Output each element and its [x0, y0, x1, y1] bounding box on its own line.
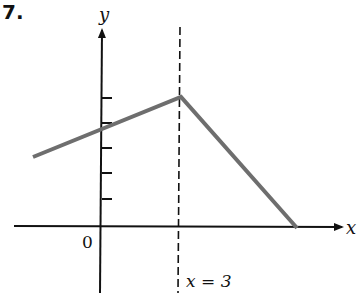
origin-label: 0: [82, 232, 93, 252]
dashed-line-label: x = 3: [186, 271, 231, 291]
graph-figure: y x 0 x = 3: [0, 0, 359, 293]
y-axis: [100, 30, 102, 293]
dashed-line-x3: [178, 27, 180, 293]
y-axis-ticks: [102, 98, 112, 199]
x-axis-label: x: [346, 217, 356, 238]
y-axis-label: y: [98, 4, 110, 25]
graph-line: [33, 97, 297, 228]
